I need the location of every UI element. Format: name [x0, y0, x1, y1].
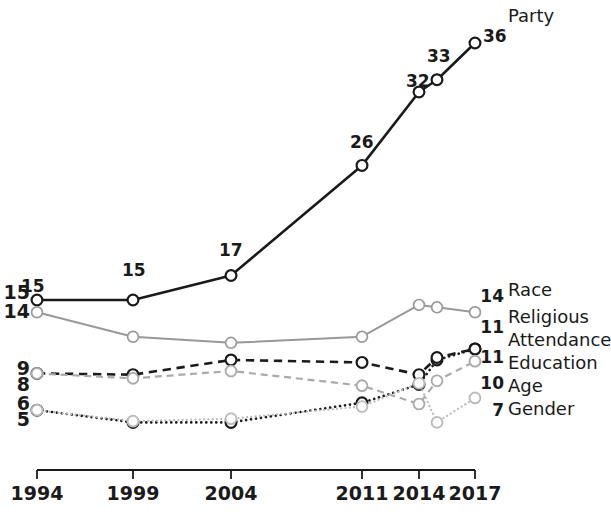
data-point-gender-2014	[414, 378, 425, 389]
series-label-religious: Religious	[508, 308, 589, 326]
data-point-race-2004	[226, 337, 237, 348]
series-line-gender	[37, 383, 475, 422]
series-label-attendance: Attendance	[508, 331, 611, 349]
x-tick-1999: 1999	[103, 484, 163, 503]
party-value-label-2014: 32	[406, 73, 430, 90]
data-point-race-2014	[414, 299, 425, 310]
right-value-gender: 7	[472, 402, 504, 419]
party-value-label-2004: 17	[219, 242, 243, 259]
series-line-age	[37, 361, 475, 404]
data-point-party-2017	[470, 38, 481, 49]
party-value-label-2015: 33	[427, 48, 451, 65]
data-point-age-2014	[414, 399, 425, 410]
party-value-label-2017: 36	[483, 28, 507, 45]
data-point-age-1994	[32, 368, 43, 379]
data-point-party-2015	[432, 74, 443, 85]
x-tick-1994: 1994	[7, 484, 67, 503]
data-point-party-2004	[226, 270, 237, 281]
series-label-race: Race	[508, 281, 552, 299]
series-label-education: Education	[508, 354, 598, 372]
series-label-age: Age	[508, 377, 543, 395]
series-layer	[32, 38, 481, 428]
data-point-education-2015	[432, 352, 443, 363]
data-point-gender-2015	[432, 417, 443, 428]
data-point-party-2011	[357, 160, 368, 171]
series-line-religious-attendance	[37, 349, 475, 422]
series-label-party: Party	[508, 7, 554, 25]
x-axis	[37, 470, 475, 479]
x-tick-2011: 2011	[332, 484, 392, 503]
data-point-age-1999	[128, 373, 139, 384]
data-point-race-1999	[128, 331, 139, 342]
left-value-5: 5	[0, 410, 30, 429]
data-point-age-2004	[226, 366, 237, 377]
data-point-gender-2011	[357, 401, 368, 412]
data-point-party-1999	[128, 295, 139, 306]
data-point-education-2004	[226, 355, 237, 366]
data-point-gender-1999	[128, 416, 139, 427]
x-tick-2014: 2014	[389, 484, 449, 503]
right-value-age: 10	[472, 375, 504, 392]
x-tick-2004: 2004	[201, 484, 261, 503]
data-point-race-1994	[32, 307, 43, 318]
right-value-race: 14	[472, 288, 504, 305]
right-value-education: 11	[472, 349, 504, 366]
data-point-education-2011	[357, 357, 368, 368]
series-line-education	[37, 349, 475, 375]
party-value-label-1999: 15	[122, 262, 146, 279]
data-point-gender-1994	[32, 405, 43, 416]
series-line-race	[37, 305, 475, 343]
left-value-14: 14	[0, 302, 30, 321]
data-point-race-2015	[432, 302, 443, 313]
series-label-gender: Gender	[508, 400, 574, 418]
right-value-religious-attendance: 11	[472, 319, 504, 336]
x-tick-2017: 2017	[445, 484, 505, 503]
data-point-gender-2004	[226, 413, 237, 424]
data-point-race-2017	[470, 307, 481, 318]
data-point-age-2011	[357, 380, 368, 391]
data-point-race-2011	[357, 331, 368, 342]
data-point-age-2015	[432, 375, 443, 386]
data-point-party-1994	[32, 295, 43, 306]
party-value-label-2011: 26	[350, 134, 374, 151]
